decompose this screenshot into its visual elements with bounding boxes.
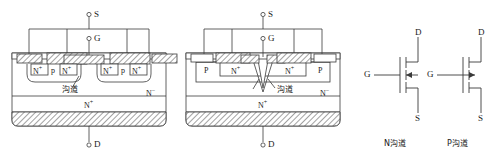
left-cell1-body-label: p	[51, 67, 55, 75]
left-gate-label: G	[94, 34, 101, 43]
p-channel-caption: P沟道	[447, 140, 468, 148]
device-diagram-svg	[0, 0, 502, 164]
middle-source-label: S	[268, 10, 273, 19]
middle-gate-label: G	[268, 34, 275, 43]
p-channel-gate-label: G	[427, 70, 434, 79]
figure-canvas: S G D N+ p N+ N+ p N+ 沟道 N− N+ S G D P P…	[0, 0, 502, 164]
left-cell2-body-label: p	[121, 67, 125, 75]
left-cell2-source-right-label: N+	[132, 65, 141, 76]
left-gate-terminal-node	[87, 36, 91, 40]
n-channel-gate-label: G	[364, 70, 371, 79]
left-epi-label: N−	[146, 87, 155, 98]
left-substrate-label: N+	[84, 99, 93, 110]
left-drain-label: D	[94, 140, 101, 149]
middle-p-body-right-label: P	[318, 67, 322, 75]
middle-drain-metal	[186, 112, 340, 126]
left-drain-metal	[12, 112, 166, 126]
n-channel-caption: N沟道	[384, 140, 406, 148]
middle-channel-annotation: 沟道	[277, 86, 293, 94]
left-channel-annotation: 沟道	[62, 86, 78, 94]
p-channel-drain-label: D	[478, 28, 485, 37]
middle-source-terminal-node	[261, 12, 265, 16]
left-source-label: S	[94, 10, 99, 19]
left-cell1-source-right-label: N+	[62, 65, 71, 76]
left-cell1-source-left-label: N+	[33, 65, 42, 76]
n-channel-body-arrow	[406, 72, 412, 78]
p-channel-body-arrow	[469, 72, 475, 78]
middle-source-n-plus-left-label: N+	[231, 65, 240, 76]
left-source-terminal-node	[87, 12, 91, 16]
middle-source-n-plus-right-label: N+	[285, 65, 294, 76]
middle-p-body-left-label: P	[204, 67, 208, 75]
left-cell2-source-left-label: N+	[103, 65, 112, 76]
middle-gate-terminal-node	[261, 36, 265, 40]
n-channel-drain-label: D	[415, 28, 422, 37]
middle-epi-label: N−	[320, 87, 329, 98]
left-drain-terminal-node	[87, 143, 91, 147]
n-channel-source-label: S	[415, 114, 420, 123]
p-channel-source-label: S	[478, 114, 483, 123]
middle-drain-label: D	[268, 140, 275, 149]
middle-substrate-label: N+	[258, 99, 267, 110]
middle-drain-terminal-node	[261, 143, 265, 147]
left-contact-pads	[17, 53, 177, 64]
